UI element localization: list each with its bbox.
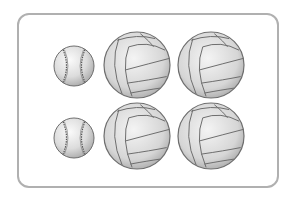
volleyball-icon [178,103,244,169]
ball-row-2 [54,103,244,169]
sports-balls-illustration [0,0,296,202]
baseball-icon [54,46,94,86]
volleyball-icon [178,32,244,98]
volleyball-icon [104,103,170,169]
ball-row-1 [54,32,244,98]
volleyball-icon [104,32,170,98]
baseball-icon [54,118,94,158]
